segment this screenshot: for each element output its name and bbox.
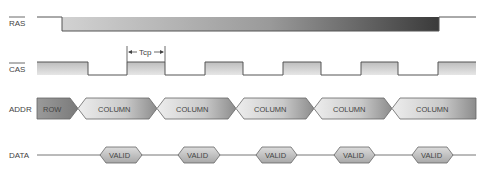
cas-high-pulse xyxy=(283,62,321,75)
addr-cell-label: COLUMN xyxy=(176,105,209,114)
data-cell-label: VALID xyxy=(421,151,443,160)
cas-signal-row: CAS xyxy=(9,62,476,75)
addr-cell-column: COLUMN xyxy=(78,98,157,119)
addr-signal-row: ADDR ROW COLUMN COLUMN COLUMN COLUMN COL… xyxy=(9,98,476,119)
cas-label: CAS xyxy=(9,65,25,74)
addr-cell-label: COLUMN xyxy=(98,105,131,114)
tcp-label: Tcp xyxy=(139,48,152,57)
ras-signal-row: RAS xyxy=(9,17,476,31)
cas-high-pulse xyxy=(37,62,88,75)
addr-cell-column: COLUMN xyxy=(157,98,236,119)
addr-cell-label: ROW xyxy=(43,105,62,114)
arrow-left-icon xyxy=(128,50,132,54)
addr-cell-label: COLUMN xyxy=(254,105,287,114)
addr-cell-label: COLUMN xyxy=(416,105,449,114)
ras-active-low-bar xyxy=(62,17,439,31)
data-cell-label: VALID xyxy=(109,151,131,160)
cas-high-pulse xyxy=(361,62,398,75)
data-cell-valid: VALID xyxy=(412,147,453,163)
dram-timing-diagram: RAS Tcp CAS ADDR ROW COLUMN xyxy=(0,0,483,176)
addr-cell-column: COLUMN xyxy=(392,98,476,119)
tcp-annotation: Tcp xyxy=(127,46,165,62)
cas-high-pulse xyxy=(127,62,165,75)
cas-high-pulse xyxy=(205,62,243,75)
addr-cell-label: COLUMN xyxy=(333,105,366,114)
data-label: DATA xyxy=(9,151,30,160)
data-cell-valid: VALID xyxy=(178,147,220,163)
addr-label: ADDR xyxy=(9,105,32,114)
data-cell-valid: VALID xyxy=(256,147,297,163)
data-cell-label: VALID xyxy=(265,151,287,160)
cas-high-pulse xyxy=(438,62,476,75)
data-cell-label: VALID xyxy=(187,151,209,160)
ras-label: RAS xyxy=(9,19,25,28)
data-signal-row: DATA VALID VALID VALID VALID VALID xyxy=(9,147,476,163)
arrow-right-icon xyxy=(160,50,164,54)
data-cell-valid: VALID xyxy=(100,147,142,163)
addr-cell-column: COLUMN xyxy=(236,98,314,119)
cas-waveform xyxy=(37,62,476,75)
data-cell-label: VALID xyxy=(343,151,365,160)
data-cell-valid: VALID xyxy=(334,147,375,163)
addr-cell-column: COLUMN xyxy=(314,98,392,119)
addr-cell-row: ROW xyxy=(37,98,78,119)
